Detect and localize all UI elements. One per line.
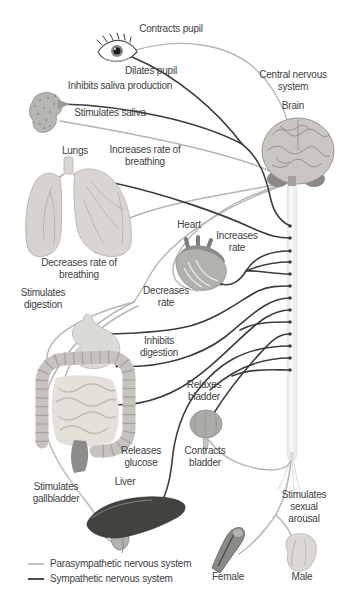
label-central-nervous-system: Central nervous system <box>250 69 336 93</box>
label-stimulates-digestion: Stimulates digestion <box>14 287 72 311</box>
label-stimulates-saliva: Stimulates saliva <box>69 107 151 119</box>
legend-sympathetic-label: Sympathetic nervous system <box>50 573 173 584</box>
label-increases-breathing: Increases rate of breathing <box>108 144 182 168</box>
liver-illustration <box>87 497 185 553</box>
label-contracts-bladder: Contracts bladder <box>178 445 232 469</box>
sympathetic-line-swatch <box>27 576 45 582</box>
legend-row-sympathetic: Sympathetic nervous system <box>27 573 173 584</box>
label-heart: Heart <box>172 219 206 231</box>
legend-row-parasympathetic: Parasympathetic nervous system <box>27 558 191 569</box>
label-female: Female <box>206 571 250 583</box>
legend-parasympathetic-label: Parasympathetic nervous system <box>50 558 191 569</box>
label-dilates-pupil: Dilates pupil <box>118 65 184 77</box>
label-decreases-rate: Decreases rate <box>138 285 194 309</box>
male-organ-illustration <box>286 534 317 572</box>
label-releases-glucose: Releases glucose <box>114 445 168 469</box>
label-decreases-breathing: Decreases rate of breathing <box>40 257 118 281</box>
label-contracts-pupil: Contracts pupil <box>133 23 209 35</box>
lungs-illustration <box>26 157 132 257</box>
label-stimulates-sexual-arousal: Stimulates sexual arousal <box>274 489 334 526</box>
salivary-gland-illustration <box>30 93 70 133</box>
label-brain: Brain <box>275 100 311 112</box>
label-male: Male <box>284 571 320 583</box>
label-liver: Liver <box>109 476 141 488</box>
label-inhibits-digestion: Inhibits digestion <box>134 335 184 359</box>
eye-illustration <box>97 33 137 61</box>
label-inhibits-saliva: Inhibits saliva production <box>58 80 182 92</box>
label-stimulates-gallbladder: Stimulates gallbladder <box>24 481 88 505</box>
brain-illustration <box>262 118 334 187</box>
parasympathetic-line-swatch <box>27 561 45 567</box>
label-lungs: Lungs <box>58 145 92 157</box>
label-relaxes-bladder: Relaxes bladder <box>179 379 229 403</box>
female-organ-illustration <box>212 527 245 573</box>
label-increases-rate: Increases rate <box>210 230 264 254</box>
autonomic-nervous-system-diagram: Contracts pupil Dilates pupil Central ne… <box>0 0 347 610</box>
